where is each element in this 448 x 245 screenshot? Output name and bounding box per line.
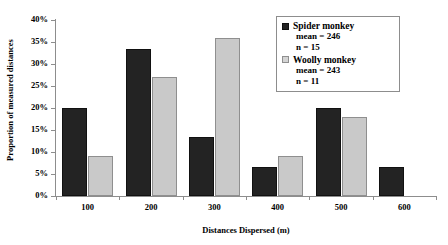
legend-entry-n: n = 11 bbox=[296, 76, 395, 87]
bar bbox=[278, 156, 303, 196]
y-axis-tick-label: 10% bbox=[31, 146, 48, 156]
legend-entry-label: Woolly monkey bbox=[293, 55, 356, 65]
x-axis-tick-mark bbox=[309, 196, 310, 200]
bar bbox=[342, 117, 367, 196]
y-axis-tick-label: 0% bbox=[35, 190, 48, 200]
bar bbox=[62, 108, 87, 196]
legend-entry-n: n = 15 bbox=[296, 42, 395, 53]
bar-group bbox=[189, 20, 240, 196]
y-axis-tick-label: 30% bbox=[31, 58, 48, 68]
x-axis-tick-mark bbox=[246, 196, 247, 200]
x-axis-tick-label: 400 bbox=[248, 202, 308, 212]
bar bbox=[189, 137, 214, 196]
x-axis-tick-label: 500 bbox=[311, 202, 371, 212]
x-axis-title: Distances Dispersed (m) bbox=[56, 225, 436, 235]
chart-figure: Proportion of measured distances 0%5%10%… bbox=[0, 0, 448, 245]
x-axis-tick-mark bbox=[119, 196, 120, 200]
x-axis-tick-label: 300 bbox=[184, 202, 244, 212]
legend-entry-woolly-monkey[interactable]: Woolly monkey mean = 243 n = 11 bbox=[282, 55, 395, 88]
y-axis-tick-label: 25% bbox=[31, 80, 48, 90]
x-axis-tick-mark bbox=[436, 196, 437, 200]
y-axis-tick-label: 35% bbox=[31, 36, 48, 46]
x-axis-tick-mark bbox=[373, 196, 374, 200]
bar bbox=[215, 38, 240, 196]
legend-entry-mean: mean = 243 bbox=[296, 65, 395, 76]
y-axis-title: Proportion of measured distances bbox=[0, 0, 20, 200]
x-axis-tick-mark bbox=[183, 196, 184, 200]
y-axis-tick-label: 15% bbox=[31, 124, 48, 134]
bar bbox=[316, 108, 341, 196]
bar-group bbox=[62, 20, 113, 196]
legend: Spider monkey mean = 246 n = 15 Woolly m… bbox=[276, 16, 400, 92]
legend-entry-label: Spider monkey bbox=[293, 21, 354, 31]
bar bbox=[379, 167, 404, 196]
x-axis-tick-label: 600 bbox=[374, 202, 434, 212]
y-axis-tick-label: 20% bbox=[31, 102, 48, 112]
bar-group bbox=[126, 20, 177, 196]
light-square-icon bbox=[282, 56, 289, 63]
x-axis-tick-label: 100 bbox=[58, 202, 118, 212]
dark-square-icon bbox=[282, 23, 289, 30]
legend-entry-header: Woolly monkey bbox=[282, 55, 395, 65]
legend-entry-mean: mean = 246 bbox=[296, 31, 395, 42]
x-axis-tick-mark bbox=[56, 196, 57, 200]
y-axis-tick-label: 40% bbox=[31, 14, 48, 24]
bar bbox=[252, 167, 277, 196]
x-axis-tick-label: 200 bbox=[121, 202, 181, 212]
legend-entry-spider-monkey[interactable]: Spider monkey mean = 246 n = 15 bbox=[282, 21, 395, 54]
bar bbox=[88, 156, 113, 196]
bar bbox=[126, 49, 151, 196]
bar bbox=[152, 77, 177, 196]
y-axis-tick-label: 5% bbox=[35, 168, 48, 178]
y-axis-title-text: Proportion of measured distances bbox=[5, 39, 15, 161]
legend-entry-header: Spider monkey bbox=[282, 21, 395, 31]
